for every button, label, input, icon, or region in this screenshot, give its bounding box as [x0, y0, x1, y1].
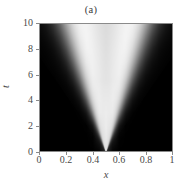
plot-area: [39, 23, 173, 152]
y-tick-label: 10: [3, 18, 33, 28]
y-tick-label: 8: [3, 44, 33, 54]
heatmap-canvas: [40, 24, 172, 151]
panel-title: (a): [0, 4, 182, 16]
x-tick-label: 1: [152, 155, 182, 165]
y-tick-label: 2: [3, 121, 33, 131]
figure-panel: (a) 10 8 6 4 2 0 0 0.2 0.4 0.6 0.8 1 x t: [0, 0, 182, 188]
x-axis-label: x: [39, 169, 173, 180]
y-axis-label: t: [0, 76, 11, 98]
